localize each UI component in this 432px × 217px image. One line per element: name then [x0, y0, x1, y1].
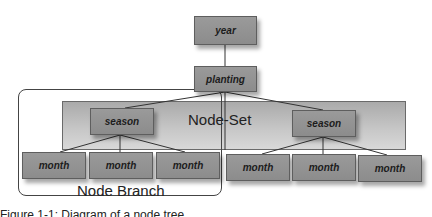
node-planting: planting [194, 66, 257, 92]
node-month: month [156, 152, 220, 179]
node-year: year [194, 16, 257, 45]
node-month: month [89, 152, 153, 179]
node-branch-label: Node Branch [77, 182, 165, 199]
node-set-label: Node-Set [188, 111, 251, 128]
node-season-left: season [90, 108, 154, 135]
node-month: month [22, 152, 86, 179]
node-month: month [292, 154, 356, 181]
node-season-right: season [292, 110, 356, 137]
node-month: month [358, 155, 422, 182]
node-month: month [226, 154, 290, 181]
figure-caption: Figure 1-1: Diagram of a node tree [0, 208, 184, 217]
node-branch-region [18, 89, 222, 196]
